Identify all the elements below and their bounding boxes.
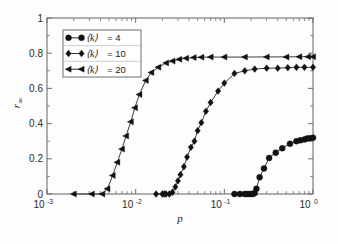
legend-k-symbol: ⟨k⟩ xyxy=(86,48,98,59)
data-marker-diamond xyxy=(175,177,180,184)
x-tick-label: 10 xyxy=(299,199,311,210)
x-tick-exponent: -1 xyxy=(224,198,230,205)
data-marker-diamond xyxy=(181,163,186,170)
chart-plot: 10-310-210-110000.20.40.60.81 ⟨k⟩= 4⟨k⟩=… xyxy=(0,0,338,244)
figure-canvas: 10-310-210-110000.20.40.60.81 ⟨k⟩= 4⟨k⟩=… xyxy=(0,0,338,244)
data-marker-triangle-left xyxy=(241,54,247,60)
data-marker-diamond xyxy=(184,154,189,161)
data-marker-triangle-left xyxy=(198,54,204,60)
data-marker-diamond xyxy=(242,67,247,74)
data-marker-diamond xyxy=(310,64,315,71)
chart-legend: ⟨k⟩= 4⟨k⟩= 10⟨k⟩= 20 xyxy=(63,30,141,77)
legend-k-symbol: ⟨k⟩ xyxy=(86,32,98,43)
data-marker-circle xyxy=(231,191,237,197)
data-marker-diamond xyxy=(178,171,183,178)
legend-label: = 4 xyxy=(107,32,120,43)
data-marker-triangle-left xyxy=(148,70,154,76)
y-axis-title: r∞ xyxy=(10,98,25,108)
y-tick-label: 0.6 xyxy=(29,83,43,94)
data-marker-diamond xyxy=(264,65,269,72)
data-marker-diamond xyxy=(173,184,178,191)
y-tick-label: 0.4 xyxy=(29,118,43,129)
y-tick-label: 0.8 xyxy=(29,48,43,59)
data-marker-triangle-left xyxy=(163,60,169,66)
data-marker-diamond xyxy=(188,144,193,151)
legend-k-symbol: ⟨k⟩ xyxy=(86,64,98,75)
y-tick-label: 1 xyxy=(37,13,43,24)
data-marker-circle xyxy=(257,174,263,180)
data-marker-triangle-left xyxy=(263,54,269,60)
data-marker-triangle-left xyxy=(99,191,105,197)
data-marker-triangle-left xyxy=(296,54,302,60)
data-marker-diamond xyxy=(285,64,290,71)
data-marker-triangle-left xyxy=(190,55,196,61)
data-marker-diamond xyxy=(203,108,208,115)
data-marker-diamond xyxy=(192,138,197,145)
x-tick-exponent: -2 xyxy=(136,198,142,205)
data-marker-diamond xyxy=(252,66,257,73)
data-marker-diamond xyxy=(275,65,280,72)
series-1 xyxy=(231,135,316,197)
data-marker-triangle-left xyxy=(283,54,289,60)
data-marker-triangle-left xyxy=(176,56,182,62)
data-marker-circle xyxy=(287,141,293,147)
data-marker-triangle-left xyxy=(221,54,227,60)
data-marker-diamond xyxy=(199,119,204,126)
data-marker-circle xyxy=(266,155,272,161)
data-marker-circle xyxy=(66,35,72,41)
data-marker-diamond xyxy=(302,64,307,71)
x-tick-exponent: -3 xyxy=(47,198,53,205)
y-tick-label: 0.2 xyxy=(29,153,43,164)
data-marker-diamond xyxy=(195,127,200,134)
x-tick-label: 10 xyxy=(33,199,45,210)
series-line xyxy=(234,138,313,194)
y-tick-label: 0 xyxy=(37,189,43,200)
y-axis-title-subscript: ∞ xyxy=(16,98,25,104)
data-marker-triangle-left xyxy=(142,77,148,83)
data-marker-diamond xyxy=(153,191,158,198)
legend-label: = 10 xyxy=(107,48,126,59)
x-tick-label: 10 xyxy=(122,199,134,210)
data-marker-triangle-left xyxy=(169,58,175,64)
x-tick-exponent: 0 xyxy=(314,198,318,205)
data-marker-circle xyxy=(79,35,85,41)
data-marker-circle xyxy=(261,165,267,171)
data-marker-circle xyxy=(279,145,285,151)
data-marker-triangle-left xyxy=(183,55,189,61)
series-2 xyxy=(153,64,315,198)
data-marker-circle xyxy=(310,135,316,141)
data-marker-circle xyxy=(253,186,259,192)
x-tick-label: 10 xyxy=(211,199,223,210)
data-marker-diamond xyxy=(294,64,299,71)
x-axis-title: p xyxy=(176,212,183,224)
data-marker-triangle-left xyxy=(207,54,213,60)
legend-label: = 20 xyxy=(107,64,126,75)
data-marker-circle xyxy=(273,150,279,156)
